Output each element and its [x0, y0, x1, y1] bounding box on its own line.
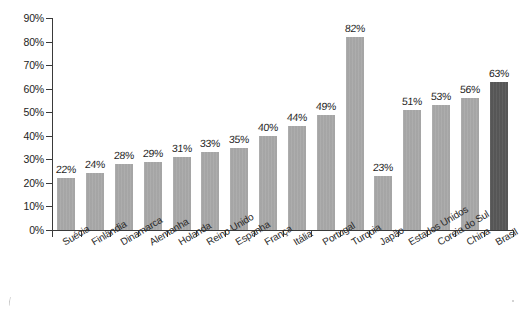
bar-8	[288, 126, 306, 230]
y-axis-tick	[46, 18, 52, 19]
bar-15	[490, 82, 508, 230]
bar-12	[403, 110, 421, 230]
bar-value-label-1: 24%	[79, 159, 112, 170]
y-axis-tick	[46, 206, 52, 207]
bar-0	[57, 178, 75, 230]
y-axis-label: 90%	[0, 13, 44, 23]
bar-9	[317, 115, 335, 230]
bar-chart: 0%10%20%30%40%50%60%70%80%90% 22%24%28%2…	[0, 0, 526, 315]
y-axis-tick	[46, 89, 52, 90]
y-axis-tick	[46, 183, 52, 184]
bar-value-label-7: 40%	[252, 122, 285, 133]
y-axis-label: 60%	[0, 84, 44, 94]
y-axis-label: 20%	[0, 178, 44, 188]
scan-artifact-dot	[512, 300, 514, 302]
bar-10	[346, 37, 364, 230]
y-axis-label: 10%	[0, 201, 44, 211]
y-axis-tick	[46, 159, 52, 160]
bar-13	[432, 105, 450, 230]
bar-value-label-14: 56%	[453, 84, 486, 95]
y-axis-label: 50%	[0, 107, 44, 117]
bar-5	[201, 152, 219, 230]
scan-artifact	[8, 297, 13, 306]
y-axis-label: 70%	[0, 60, 44, 70]
y-axis-tick	[46, 112, 52, 113]
y-axis-tick	[46, 136, 52, 137]
bar-value-label-2: 28%	[108, 150, 141, 161]
y-axis-tick	[46, 42, 52, 43]
bar-value-label-10: 82%	[338, 23, 371, 34]
y-axis-label: 40%	[0, 131, 44, 141]
y-axis-label: 30%	[0, 154, 44, 164]
bar-value-label-6: 35%	[223, 134, 256, 145]
bar-7	[259, 136, 277, 230]
bar-value-label-9: 49%	[309, 101, 342, 112]
bar-1	[86, 173, 104, 230]
x-axis-tick	[52, 231, 53, 237]
bar-value-label-11: 23%	[367, 162, 400, 173]
y-axis-label: 0%	[0, 225, 44, 235]
bar-value-label-15: 63%	[482, 68, 515, 79]
y-axis-line	[52, 18, 53, 230]
bar-value-label-8: 44%	[281, 112, 314, 123]
bar-value-label-13: 53%	[425, 91, 458, 102]
y-axis-label: 80%	[0, 37, 44, 47]
bar-value-label-3: 29%	[136, 148, 169, 159]
category-label-8: Itália	[292, 229, 314, 248]
y-axis-tick	[46, 65, 52, 66]
